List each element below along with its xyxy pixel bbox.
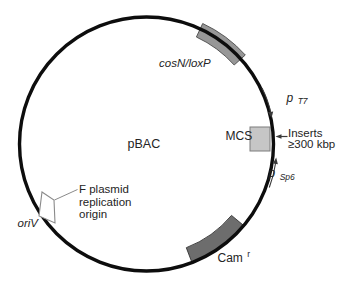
oriv-segment [39,192,55,223]
plasmid-name-label: pBAC [128,137,161,151]
f-plasmid-origin-label: F plasmid replication origin [79,183,131,220]
plasmid-map-canvas: cosN/loxP pBAC MCS p T7 Inserts ≥300 kbp… [0,0,342,284]
plasmid-map-figure: cosN/loxP pBAC MCS p T7 Inserts ≥300 kbp… [0,0,342,284]
cam-label: Cam r [218,248,251,265]
oriv-leader-line [55,190,78,201]
cosn-loxp-label: cosN/loxP [159,57,211,69]
mcs-segment [250,127,270,151]
svg-text:replication: replication [79,196,131,208]
svg-text:origin: origin [79,208,107,220]
insert-arrow [276,134,288,139]
t7-promoter-label: p T7 [286,88,308,107]
inserts-label: Inserts ≥300 kbp [288,127,335,150]
svg-text:F plasmid: F plasmid [79,183,129,195]
svg-text:≥300 kbp: ≥300 kbp [288,138,335,150]
sp6-promoter-label: p Sp6 [268,163,296,182]
oriv-label: oriV [18,217,40,229]
mcs-label: MCS [226,129,253,143]
